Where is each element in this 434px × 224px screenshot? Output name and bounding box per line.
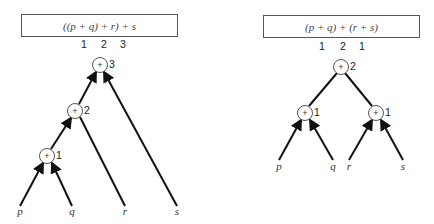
leaf-r: r <box>123 205 127 217</box>
leaf-s: s <box>401 160 405 172</box>
left-depth-number: 1 <box>81 38 87 50</box>
leaf-q: q <box>69 205 75 217</box>
right-depth-number: 2 <box>340 40 346 52</box>
left-expression: ((p + q) + r) + s <box>63 20 136 32</box>
edge-node1l-to-node2 <box>309 73 337 106</box>
right-expression: (p + q) + (r + s) <box>305 21 378 33</box>
plus-icon: + <box>72 106 77 116</box>
right-expression-box: (p + q) + (r + s) <box>263 15 420 38</box>
leaf-r: r <box>347 160 351 172</box>
edge-r-to-node1r <box>349 120 372 160</box>
edge-p-to-node1 <box>20 163 43 206</box>
plus-icon: + <box>373 108 378 118</box>
left-depth-number: 2 <box>101 38 107 50</box>
node-level-label: 3 <box>109 58 115 70</box>
edge-node1-to-node2 <box>51 118 71 149</box>
leaf-s: s <box>175 205 179 217</box>
node-level-label: 2 <box>84 104 90 116</box>
edge-q-to-node1 <box>52 163 72 206</box>
right-depth-number: 1 <box>359 40 365 52</box>
edge-node2-to-node3 <box>79 72 96 104</box>
plus-icon: + <box>302 108 307 118</box>
plus-icon: + <box>44 151 49 161</box>
right-depth-number: 1 <box>319 40 325 52</box>
edge-r-to-node2 <box>80 117 125 206</box>
edge-s-to-node1r <box>381 120 403 160</box>
leaf-q: q <box>330 160 336 172</box>
left-depth-number: 3 <box>120 38 126 50</box>
left-expression-box: ((p + q) + r) + s <box>21 14 178 37</box>
plus-icon: + <box>338 62 343 72</box>
leaf-p: p <box>276 160 282 172</box>
edge-p-to-node1l <box>279 120 301 160</box>
edge-node1r-to-node2 <box>345 73 372 106</box>
node-level-label: 2 <box>350 60 356 72</box>
edge-q-to-node1l <box>310 120 333 160</box>
leaf-p: p <box>17 205 23 217</box>
node-level-label: 1 <box>314 106 320 118</box>
node-level-label: 1 <box>56 149 62 161</box>
plus-icon: + <box>97 60 102 70</box>
node-level-label: 1 <box>385 106 391 118</box>
